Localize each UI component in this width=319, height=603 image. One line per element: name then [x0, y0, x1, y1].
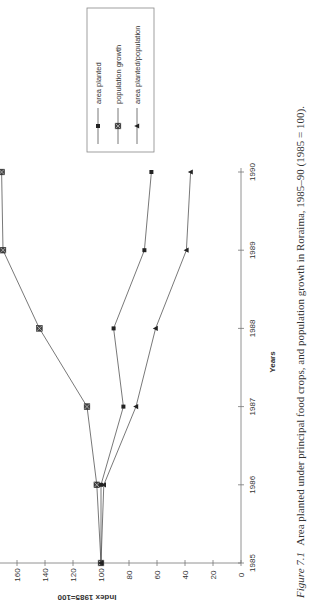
series-line: [101, 172, 151, 563]
series-area-planted: [99, 170, 153, 565]
rotated-line-chart: 0204060801001201401601985198619871988198…: [0, 0, 319, 603]
legend: area plantedpopulation growtharea plante…: [87, 8, 154, 152]
data-series: [0, 169, 193, 566]
axes: 0204060801001201401601985198619871988198…: [0, 163, 257, 582]
legend-label: area planted: [94, 62, 103, 104]
svg-text:Figure 7.1 Area planted: Figure 7.1 Area planted under principal …: [294, 106, 307, 599]
index-tick-label: 120: [69, 568, 78, 582]
triangle-marker-icon: [133, 404, 138, 409]
index-tick-label: 140: [41, 568, 50, 582]
figure-caption: Figure 7.1 Area planted under principal …: [294, 106, 307, 599]
caption-text: Area planted under principal food crops,…: [294, 106, 307, 546]
series-line: [2, 172, 101, 563]
square-marker-icon: [149, 170, 153, 174]
square-marker-icon: [96, 124, 100, 128]
index-tick-label: 160: [13, 568, 22, 582]
caption-label: Figure 7.1: [294, 552, 306, 599]
series-area-planted-population: [98, 169, 193, 565]
year-tick-label: 1989: [248, 241, 257, 259]
square-marker-icon: [142, 248, 146, 252]
index-tick-label: 20: [209, 570, 218, 579]
year-tick-label: 1987: [248, 397, 257, 415]
year-tick-label: 1986: [248, 475, 257, 493]
year-tick-label: 1988: [248, 319, 257, 337]
legend-label: area planted/population: [133, 26, 142, 104]
index-tick-label: 80: [125, 570, 134, 579]
legend-label: population growth: [114, 45, 123, 104]
year-tick-label: 1990: [248, 163, 257, 181]
square-marker-icon: [121, 405, 125, 409]
square-marker-icon: [112, 326, 116, 330]
index-tick-label: 0: [237, 572, 246, 577]
series-population-growth: [0, 169, 104, 566]
x-axis-title: Years: [268, 351, 277, 373]
year-tick-label: 1985: [248, 554, 257, 572]
index-tick-label: 60: [153, 570, 162, 579]
index-tick-label: 100: [97, 568, 106, 582]
index-tick-label: 40: [181, 570, 190, 579]
y-axis-title: Index 1985=100: [57, 593, 116, 602]
axis-labels: Index 1985=100 Years: [57, 351, 277, 602]
